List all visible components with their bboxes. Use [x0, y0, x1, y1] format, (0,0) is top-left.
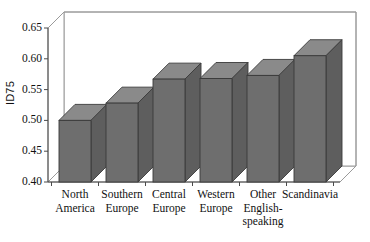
chart-container: ID75 0.400.450.500.550.600.65 North Amer…	[0, 0, 370, 242]
bar-side-face-5	[326, 40, 342, 182]
bar-front-face-3	[200, 79, 232, 182]
bar-front-face-1	[106, 103, 138, 182]
bar-front-face-4	[247, 75, 279, 182]
bar-front-face-0	[59, 120, 91, 182]
bar-side-face-2	[185, 63, 201, 182]
bar-3	[200, 63, 248, 182]
plot-area	[0, 0, 370, 242]
bar-5	[294, 40, 342, 182]
bar-front-face-5	[294, 56, 326, 182]
bar-side-face-3	[232, 63, 248, 182]
bar-4	[247, 59, 295, 182]
bar-2	[153, 63, 201, 182]
bar-front-face-2	[153, 79, 185, 182]
bar-side-face-1	[138, 87, 154, 182]
bar-1	[106, 87, 154, 182]
bar-side-face-4	[279, 59, 295, 182]
bar-0	[59, 104, 107, 182]
